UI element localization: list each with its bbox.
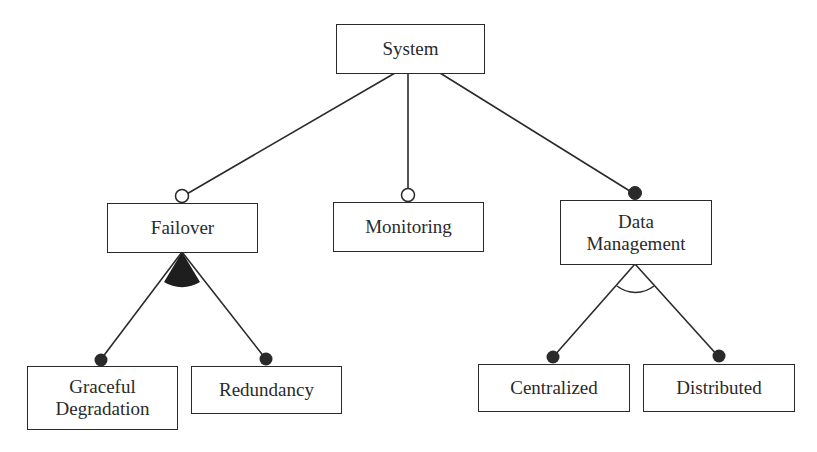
node-redundancy: Redundancy xyxy=(191,366,342,414)
mandatory-dot-icon xyxy=(547,351,560,364)
mandatory-dot-icon xyxy=(260,353,273,366)
node-label-line1: Data xyxy=(618,211,654,233)
optional-circle-icon xyxy=(176,190,189,203)
node-label: Distributed xyxy=(676,377,762,399)
node-label-line2: Degradation xyxy=(56,398,150,420)
node-label: Redundancy xyxy=(219,379,314,401)
mandatory-dot-icon xyxy=(95,354,108,367)
node-label: Monitoring xyxy=(365,216,452,238)
node-failover: Failover xyxy=(107,203,258,253)
edge-datamanagement-centralized xyxy=(554,264,635,356)
node-data-management: Data Management xyxy=(560,200,712,265)
node-label-line2: Management xyxy=(586,233,685,255)
edge-system-datamanagement xyxy=(440,73,633,193)
node-label: Failover xyxy=(151,217,214,239)
edge-failover-graceful xyxy=(102,252,182,358)
optional-circle-icon xyxy=(402,189,415,202)
node-label: System xyxy=(383,38,439,60)
mandatory-dot-icon xyxy=(713,350,726,363)
node-monitoring: Monitoring xyxy=(333,202,484,252)
node-system: System xyxy=(336,24,485,74)
node-distributed: Distributed xyxy=(643,364,795,412)
node-centralized: Centralized xyxy=(478,364,630,412)
edge-failover-redundancy xyxy=(182,252,265,358)
node-label-line1: Graceful xyxy=(69,376,135,398)
node-graceful-degradation: Graceful Degradation xyxy=(27,366,178,430)
edge-system-failover xyxy=(185,73,395,195)
edge-datamanagement-distributed xyxy=(635,264,718,356)
mandatory-dot-icon xyxy=(629,187,642,200)
alternative-group-arc-icon xyxy=(617,286,654,292)
node-label: Centralized xyxy=(510,377,598,399)
